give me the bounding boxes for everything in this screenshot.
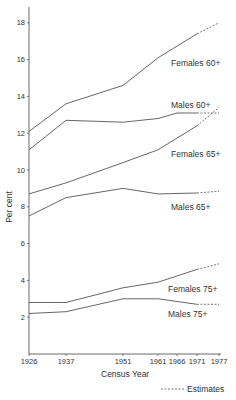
x-tick-label: 1926 — [21, 357, 38, 366]
legend-estimates-label: Estimates — [187, 384, 224, 394]
y-tick-label: 4 — [21, 276, 25, 285]
y-axis-title: Per cent — [4, 191, 14, 223]
y-tick-label: 8 — [21, 202, 25, 211]
series-males-60-line — [29, 113, 197, 150]
x-tick-label: 1971 — [189, 357, 206, 366]
y-tick-label: 10 — [17, 166, 25, 175]
line-chart: 2468101214161819261937195119611966197119… — [0, 0, 236, 400]
x-tick-label: 1951 — [115, 357, 132, 366]
x-tick-label: 1977 — [211, 357, 228, 366]
x-tick-label: 1937 — [58, 357, 75, 366]
x-tick-label: 1961 — [150, 357, 167, 366]
series-males-65-estimate — [197, 191, 219, 193]
label-males-60: Males 60+ — [171, 100, 210, 110]
series-females-60-line — [29, 34, 197, 132]
label-males-65: Males 65+ — [171, 202, 210, 212]
y-tick-label: 18 — [17, 18, 25, 27]
label-males-75: Males 75+ — [168, 309, 207, 319]
y-tick-label: 6 — [21, 239, 25, 248]
series-females-75-estimate — [197, 264, 219, 270]
label-females-65: Females 65+ — [171, 149, 220, 159]
series-females-65-estimate — [197, 107, 219, 125]
label-females-75: Females 75+ — [168, 284, 217, 294]
y-tick-label: 14 — [17, 92, 25, 101]
series-females-65-line — [29, 126, 197, 194]
label-females-60: Females 60+ — [171, 58, 220, 68]
y-tick-label: 2 — [21, 313, 25, 322]
series-females-60-estimate — [197, 23, 219, 34]
x-axis-title: Census Year — [101, 369, 149, 379]
y-tick-label: 12 — [17, 129, 25, 138]
y-tick-label: 16 — [17, 55, 25, 64]
legend: Estimates — [161, 384, 224, 394]
x-tick-label: 1966 — [169, 357, 186, 366]
